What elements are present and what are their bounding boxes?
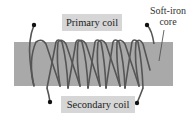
primary-lead-right: [147, 25, 154, 44]
transformer-diagram: Primary coil Secondary coil Soft-iron co…: [0, 0, 194, 121]
core-label-line1: Soft-iron: [144, 5, 192, 16]
secondary-terminal-left-dot: [48, 100, 52, 104]
soft-iron-core-label: Soft-iron core: [144, 5, 192, 27]
core-label-line2: core: [144, 16, 192, 27]
primary-coil-label: Primary coil: [62, 14, 122, 31]
secondary-coil-label: Secondary coil: [61, 96, 135, 113]
primary-terminal-left-dot: [32, 23, 36, 27]
secondary-terminal-right-dot: [135, 101, 139, 105]
secondary-lead-right: [137, 88, 143, 103]
